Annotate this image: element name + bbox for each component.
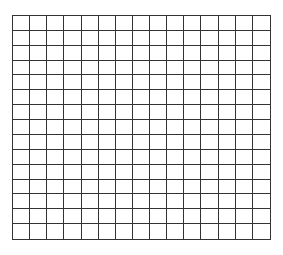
grid-cell [133, 209, 150, 224]
grid-cell [30, 75, 47, 90]
grid-cell [116, 120, 133, 135]
grid-cell [47, 16, 64, 31]
grid-cell [30, 105, 47, 120]
grid-cell [64, 135, 81, 150]
grid-cell [13, 16, 30, 31]
grid-cell [201, 180, 218, 195]
grid-cell [219, 135, 236, 150]
grid-cell [133, 165, 150, 180]
grid-cell [99, 31, 116, 46]
grid-cell [82, 135, 99, 150]
grid-cell [236, 150, 253, 165]
grid-cell [201, 90, 218, 105]
grid-cell [236, 194, 253, 209]
grid-cell [219, 150, 236, 165]
grid-cell [150, 16, 167, 31]
grid-cell [219, 46, 236, 61]
grid-cell [82, 194, 99, 209]
grid-cell [82, 224, 99, 239]
grid-cell [13, 105, 30, 120]
grid-cell [64, 46, 81, 61]
grid-cell [64, 16, 81, 31]
grid-cell [201, 165, 218, 180]
grid-cell [82, 120, 99, 135]
grid-cell [82, 165, 99, 180]
grid-cell [13, 61, 30, 76]
grid-cell [47, 120, 64, 135]
grid-cell [236, 209, 253, 224]
grid-cell [167, 105, 184, 120]
grid-cell [133, 16, 150, 31]
grid-cell [184, 31, 201, 46]
grid-cell [99, 90, 116, 105]
grid-cell [99, 224, 116, 239]
grid-cell [150, 75, 167, 90]
grid-cell [64, 224, 81, 239]
grid-cell [167, 120, 184, 135]
grid-cell [184, 165, 201, 180]
grid-cell [184, 120, 201, 135]
grid-cell [184, 209, 201, 224]
grid-cell [82, 209, 99, 224]
grid-cell [184, 224, 201, 239]
grid-cell [150, 209, 167, 224]
grid-cell [201, 209, 218, 224]
grid-cell [116, 16, 133, 31]
grid-cell [219, 165, 236, 180]
grid-cell [13, 46, 30, 61]
grid-cell [201, 61, 218, 76]
grid-cell [236, 46, 253, 61]
grid-cell [13, 120, 30, 135]
grid-cell [150, 194, 167, 209]
grid-cell [167, 16, 184, 31]
grid-cell [64, 90, 81, 105]
empty-grid [12, 15, 271, 240]
grid-cell [82, 150, 99, 165]
grid-cell [236, 31, 253, 46]
grid-cell [167, 194, 184, 209]
grid-cell [13, 165, 30, 180]
grid-cell [13, 90, 30, 105]
grid-cell [64, 61, 81, 76]
grid-cell [219, 90, 236, 105]
grid-cell [219, 180, 236, 195]
grid-cell [253, 209, 270, 224]
grid-cell [150, 150, 167, 165]
grid-cell [133, 224, 150, 239]
grid-cell [133, 61, 150, 76]
grid-cell [99, 194, 116, 209]
grid-cell [47, 46, 64, 61]
grid-cell [47, 165, 64, 180]
grid-cell [99, 120, 116, 135]
grid-cell [30, 46, 47, 61]
grid-cell [116, 61, 133, 76]
grid-cell [30, 194, 47, 209]
grid-cell [99, 209, 116, 224]
grid-cell [133, 135, 150, 150]
grid-cell [13, 209, 30, 224]
grid-cell [150, 61, 167, 76]
grid-cell [236, 224, 253, 239]
grid-cell [30, 180, 47, 195]
grid-cell [116, 180, 133, 195]
grid-cell [236, 105, 253, 120]
grid-cell [150, 105, 167, 120]
grid-cell [82, 31, 99, 46]
grid-cell [201, 105, 218, 120]
grid-cell [201, 150, 218, 165]
grid-cell [253, 194, 270, 209]
grid-cell [201, 75, 218, 90]
grid-cell [116, 224, 133, 239]
grid-cell [30, 61, 47, 76]
grid-cell [47, 31, 64, 46]
grid-cell [116, 194, 133, 209]
grid-cell [253, 61, 270, 76]
grid-cell [47, 90, 64, 105]
grid-cell [167, 90, 184, 105]
grid-cell [13, 150, 30, 165]
grid-cell [116, 90, 133, 105]
grid-cell [133, 90, 150, 105]
grid-cell [219, 120, 236, 135]
grid-cell [99, 180, 116, 195]
grid-cell [184, 194, 201, 209]
